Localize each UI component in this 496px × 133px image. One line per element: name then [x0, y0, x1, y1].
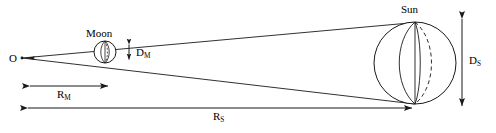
moon-diameter-subscript: M: [144, 52, 150, 60]
moon-distance-label: RM: [57, 89, 71, 100]
sun-diameter-symbol: D: [469, 54, 477, 66]
moon-diameter-symbol: D: [136, 46, 144, 58]
moon-diameter-label: DM: [136, 47, 150, 58]
observer-label: O: [9, 53, 17, 64]
sun-distance-label: RS: [213, 111, 224, 122]
moon-label: Moon: [86, 28, 112, 39]
sun-sphere: [374, 22, 456, 104]
lower-tangent-ray: [22, 58, 415, 104]
upper-tangent-ray: [22, 23, 415, 59]
sun-diameter-subscript: S: [477, 60, 481, 68]
moon-distance-subscript: M: [64, 94, 70, 102]
sun-label: Sun: [401, 4, 418, 15]
sun-diameter-label: DS: [469, 55, 481, 66]
diagram-canvas: [0, 0, 496, 133]
astronomy-diagram: O Moon DM Sun DS RM RS: [0, 0, 496, 133]
sun-distance-subscript: S: [220, 116, 224, 124]
moon-sphere: [94, 41, 116, 63]
